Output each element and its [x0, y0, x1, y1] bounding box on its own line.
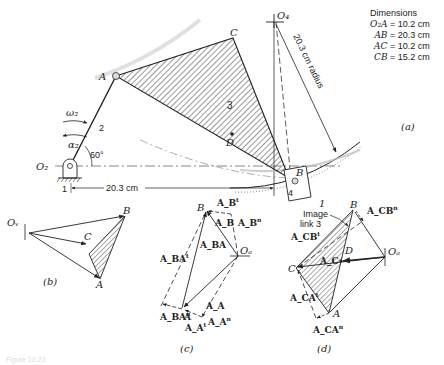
label-a: A [98, 71, 106, 82]
label-c-aba-t: A_BAt [159, 252, 189, 264]
label-alpha2: α₂ [68, 139, 79, 150]
accel-aba-n-dashed [163, 304, 182, 309]
point-d-d [339, 259, 342, 262]
label-c-b: B [196, 202, 204, 213]
label-c-ab-t: A_Bt [216, 196, 239, 208]
dimensions-title: Dimensions [370, 8, 430, 19]
label-distance: 20.3 cm [106, 183, 138, 193]
label-d-d: D [344, 245, 353, 256]
label-link-4: 4 [288, 188, 293, 198]
alpha2-arrow [63, 135, 87, 137]
label-d-c: C [288, 263, 296, 274]
label-ov: Oᵥ [7, 217, 19, 228]
label-b: B [295, 167, 303, 178]
label-ground-left: 1 [62, 184, 67, 194]
dimension-row: AC = 10.2 cm [370, 41, 430, 52]
figure-caption: Figure 10.23 [6, 356, 45, 364]
dimension-link: AB [374, 30, 387, 40]
label-c-ab: A_B [214, 218, 234, 228]
label-d-b: B [349, 199, 357, 210]
label-c-aba: A_BA [199, 240, 227, 250]
dimension-link: AC [374, 41, 387, 51]
omega2-arrow [63, 121, 87, 123]
label-c-aa: A_A [205, 301, 225, 311]
pin-b [292, 178, 298, 184]
ground-hatch [57, 178, 80, 182]
label-omega2: ω₂ [66, 107, 78, 118]
label-b-c: C [84, 231, 92, 242]
caption-c: (c) [180, 343, 194, 354]
dimension-row: CB = 15.2 cm [370, 52, 430, 63]
velocity-image-link3 [89, 216, 125, 279]
label-d-aca-n: A_CAn [312, 323, 344, 335]
accel-aca-n-dashed [317, 313, 329, 318]
accel-d-ob [355, 212, 385, 257]
label-o4: O₄ [277, 10, 289, 21]
label-angle: 60° [90, 150, 104, 160]
label-c-a: A [183, 312, 192, 322]
label-link3-d: link 3 [300, 219, 321, 229]
label-b-b: B [122, 205, 130, 216]
dimension-row: O₂A = 10.2 cm [370, 19, 430, 30]
label-c-oa: Oₐ [240, 245, 252, 256]
accel-ab-t-dashed [208, 211, 231, 214]
part-b-velocity-polygon: Oᵥ B C A (b) [7, 205, 130, 290]
caption-a: (a) [401, 121, 415, 132]
label-c: C [230, 27, 238, 38]
caption-d: (d) [317, 343, 331, 354]
dimension-value: = 10.2 cm [390, 41, 430, 51]
part-a-mechanism: O₄ 20.3 cm radius 1 3 C D B 4 A 2 ω₂ α₂ … [36, 10, 415, 209]
label-b-a: A [95, 279, 103, 290]
label-d-aca-t: A_CAt [289, 291, 319, 303]
dimension-link: O₂A [370, 19, 388, 29]
dimension-link: CB [374, 52, 388, 62]
velocity-vector-b [29, 216, 124, 233]
label-link-3: 3 [227, 100, 233, 111]
label-image: Image [303, 209, 328, 219]
label-c-ab-n: A_Bn [237, 216, 262, 228]
dimensions-table: Dimensions O₂A = 10.2 cm AB = 20.3 cm AC… [370, 8, 430, 63]
accel-vector-aa [184, 256, 238, 307]
label-o2: O₂ [36, 161, 48, 172]
point-d [230, 132, 234, 136]
dimension-value: = 15.2 cm [390, 52, 430, 62]
dimension-row: AB = 20.3 cm [370, 30, 430, 41]
part-d-acceleration-image: Oₐ Image link 3 B A_CBn A_CBt D A_C C A_… [288, 199, 400, 354]
radius-label: 20.3 cm radius [291, 32, 326, 90]
label-c-aa-n: A_An [207, 315, 231, 327]
label-d-oa: Oₐ [388, 246, 400, 257]
caption-b: (b) [43, 276, 57, 287]
label-d-acb-t: A_CBt [290, 230, 320, 242]
label-d-a: A [332, 308, 340, 319]
label-c-aa-t: A_At [184, 321, 206, 333]
label-d-acb-n: A_CBn [366, 204, 398, 216]
dimension-value: = 20.3 cm [390, 30, 430, 40]
label-d: D [225, 137, 234, 148]
part-c-acceleration-polygon: Oₐ B A_Bt A_B A_Bn A_BA A_BAt A_BAn A A_… [159, 196, 262, 354]
label-d-ac: A_C [319, 256, 339, 266]
pin-a [113, 73, 120, 80]
dimension-value: = 10.2 cm [390, 19, 430, 29]
label-ground-right: 1 [319, 198, 325, 209]
label-link-2: 2 [99, 123, 104, 133]
accel-d-ad [343, 257, 385, 261]
